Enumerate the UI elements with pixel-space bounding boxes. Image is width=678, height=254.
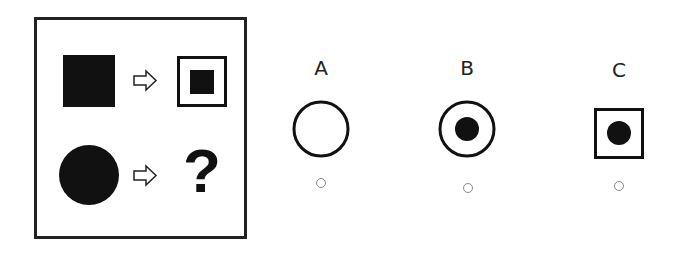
option-b-radio[interactable] — [463, 183, 473, 193]
option-a-label: A — [306, 56, 336, 80]
shapes-layer — [0, 0, 678, 254]
question-mark: ? — [183, 140, 221, 202]
filled-square-icon — [63, 55, 115, 107]
option-a-empty-circle-icon — [294, 102, 348, 156]
arrow-right-icon — [134, 71, 156, 90]
option-c-circle-in-square-icon — [596, 110, 643, 158]
option-b-circle-in-circle-icon — [440, 102, 494, 156]
arrow-right-icon — [134, 166, 156, 185]
filled-circle-icon — [59, 145, 119, 205]
option-b-label: B — [452, 56, 482, 80]
square-in-square-icon — [179, 58, 226, 106]
option-c-radio[interactable] — [614, 181, 624, 191]
option-a-radio[interactable] — [316, 178, 326, 188]
option-c-label: C — [604, 58, 634, 82]
